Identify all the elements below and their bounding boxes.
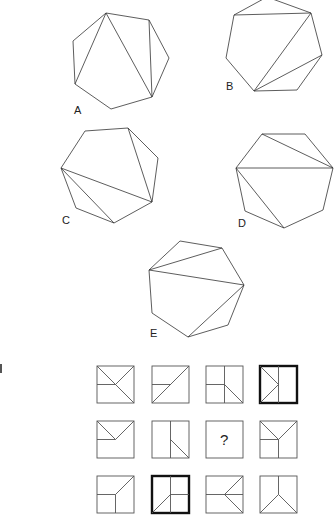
option-label-e: E — [150, 327, 157, 339]
diagonal-line — [106, 13, 152, 97]
heptagon-outline — [73, 13, 169, 109]
diagonal-line — [75, 13, 106, 84]
diagonal-line — [254, 13, 311, 91]
diagonal-line — [61, 168, 152, 202]
diagonal-line — [149, 248, 222, 270]
matrix-cell — [97, 476, 134, 513]
heptagon-option-b[interactable] — [226, 0, 322, 91]
matrix-cell — [97, 421, 134, 458]
heptagon-outline — [236, 134, 333, 228]
figure-matrix — [97, 366, 297, 513]
diagonal-line — [149, 270, 244, 285]
heptagon-option-e[interactable] — [149, 241, 244, 337]
diagonal-line — [149, 20, 152, 97]
matrix-cell — [97, 366, 134, 403]
matrix-cell — [206, 476, 243, 513]
cut-off-glyph — [0, 364, 2, 373]
matrix-cell — [260, 366, 297, 403]
heptagon-option-c[interactable] — [61, 128, 158, 223]
diagonal-line — [254, 55, 322, 91]
matrix-cell — [260, 421, 297, 458]
option-label-d: D — [238, 217, 246, 229]
matrix-cell — [152, 421, 189, 458]
diagonal-line — [262, 134, 333, 168]
heptagon-options — [61, 0, 333, 337]
heptagon-option-a[interactable] — [73, 13, 169, 109]
option-label-a: A — [74, 104, 81, 116]
matrix-cell — [260, 476, 297, 513]
heptagon-option-d[interactable] — [236, 134, 333, 228]
diagonal-line — [234, 13, 311, 15]
diagonal-line — [128, 128, 152, 202]
option-label-b: B — [226, 80, 233, 92]
diagonal-line — [188, 285, 244, 337]
question-mark: ? — [220, 431, 228, 448]
matrix-cell — [206, 366, 243, 403]
puzzle-canvas — [0, 0, 334, 528]
matrix-cell — [152, 476, 189, 513]
option-label-c: C — [62, 214, 70, 226]
matrix-cell — [152, 366, 189, 403]
